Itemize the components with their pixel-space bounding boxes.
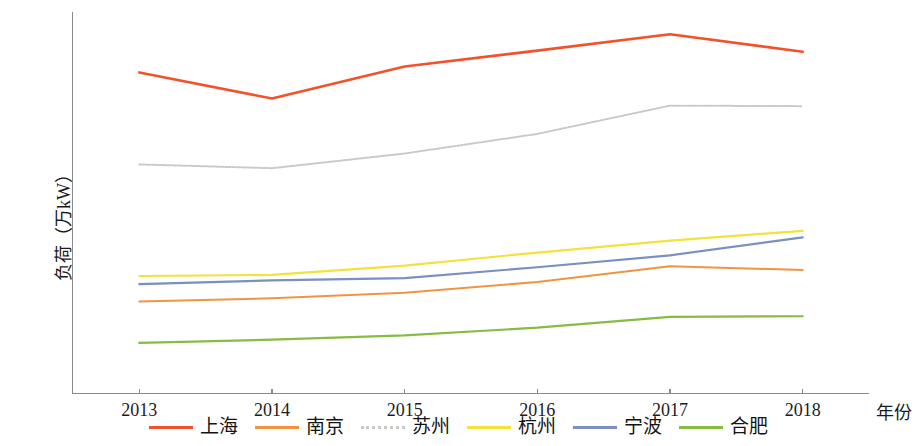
chart-figure: 负荷（万kW） 0500100015002000250030003500 201… <box>0 0 916 446</box>
series-line <box>139 34 802 98</box>
legend-color-swatch <box>255 426 299 429</box>
legend-item[interactable]: 合肥 <box>679 416 768 438</box>
legend-label: 宁波 <box>624 416 662 438</box>
series-line <box>139 316 802 343</box>
legend-item[interactable]: 上海 <box>149 416 238 438</box>
series-lines <box>73 12 869 393</box>
series-line <box>139 266 802 301</box>
series-line <box>139 237 802 284</box>
legend-item[interactable]: 苏州 <box>361 416 450 438</box>
legend-label: 杭州 <box>518 416 556 438</box>
legend-item[interactable]: 杭州 <box>467 416 556 438</box>
legend-color-swatch <box>149 426 193 429</box>
series-line <box>139 231 802 276</box>
legend-label: 南京 <box>306 416 344 438</box>
legend-label: 上海 <box>200 416 238 438</box>
legend-label: 合肥 <box>730 416 768 438</box>
legend-color-swatch <box>361 426 405 429</box>
chart-legend: 上海南京苏州杭州宁波合肥 <box>0 416 916 438</box>
legend-label: 苏州 <box>412 416 450 438</box>
legend-item[interactable]: 宁波 <box>573 416 662 438</box>
legend-item[interactable]: 南京 <box>255 416 344 438</box>
series-line <box>139 106 802 169</box>
legend-color-swatch <box>679 426 723 429</box>
legend-color-swatch <box>573 426 617 429</box>
legend-color-swatch <box>467 426 511 429</box>
plot-area: 0500100015002000250030003500 20132014201… <box>72 12 869 394</box>
